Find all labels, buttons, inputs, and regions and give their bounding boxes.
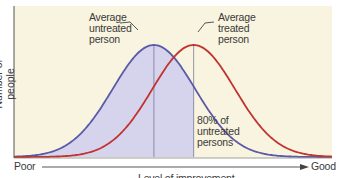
annotation-line: person <box>218 34 256 45</box>
annotation-line: person <box>89 34 132 45</box>
x-axis-poor-label: Poor <box>14 161 35 172</box>
y-axis-label: Number of people <box>0 44 16 124</box>
annotation-percentage: 80% of untreated persons <box>197 115 240 148</box>
annotation-line: persons <box>197 137 240 148</box>
x-axis-good-label: Good <box>311 161 336 172</box>
arrow-head-icon <box>300 164 309 170</box>
annotation-untreated: Average untreated person <box>89 12 132 45</box>
x-axis-label: Level of improvement <box>138 173 234 178</box>
chart-canvas <box>0 0 340 178</box>
annotation-treated: Average treated person <box>218 12 256 45</box>
